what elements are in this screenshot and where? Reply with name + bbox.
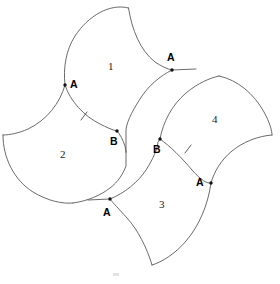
scan-artifact xyxy=(113,273,119,276)
dot-point-b-right xyxy=(158,137,161,140)
label-point-a-left: A xyxy=(70,78,78,90)
label-point-b-left: B xyxy=(110,135,118,147)
piece-1-bottom-arc xyxy=(65,85,117,131)
piece-2-right-arc xyxy=(117,131,126,152)
piece-3-bottom-left-arc xyxy=(110,199,152,265)
piece-2-left-arc xyxy=(3,135,73,203)
label-point-a-right: A xyxy=(196,176,204,188)
cusp-spikes xyxy=(88,69,196,200)
dot-point-a-right xyxy=(209,181,212,184)
piece-2-outline xyxy=(3,85,126,203)
label-point-a-bottom-left: A xyxy=(103,206,111,218)
tick-right-icon xyxy=(185,145,191,153)
cusp-spike-bottom-left xyxy=(88,199,110,200)
piece-1-inner-right-arc xyxy=(126,70,172,152)
label-point-a-top-right: A xyxy=(167,51,175,63)
region-label-2: 2 xyxy=(60,148,66,160)
piece-2-upper-left-arc xyxy=(3,85,65,135)
vertex-dots xyxy=(63,68,212,200)
piece-4-right-arc xyxy=(211,135,272,183)
dot-point-a-top-right xyxy=(170,68,173,71)
cusp-spike-top-right xyxy=(172,69,196,70)
piece-1-top-arc xyxy=(64,7,128,85)
dot-point-b-left xyxy=(115,129,118,132)
piece-1-right-arc xyxy=(129,8,173,70)
label-point-b-right: B xyxy=(153,143,161,155)
piece-3-bottom-right-arc xyxy=(152,183,211,265)
piece-4-top-arc xyxy=(219,76,272,135)
region-label-3: 3 xyxy=(159,198,165,210)
piece-4-outline xyxy=(160,76,272,183)
region-label-1: 1 xyxy=(108,60,114,72)
figure-canvas: 1 2 3 4 A A A A B B xyxy=(0,0,280,284)
dot-point-a-left xyxy=(63,83,66,86)
region-label-4: 4 xyxy=(212,113,218,125)
dissection-diagram xyxy=(0,0,280,284)
congruence-ticks xyxy=(81,112,191,153)
dot-point-a-bottom-left xyxy=(108,197,111,200)
piece-4-left-arc xyxy=(160,76,219,139)
